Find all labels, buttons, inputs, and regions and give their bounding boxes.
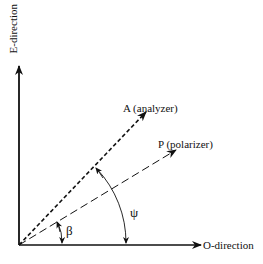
analyzer-label: A (analyzer) xyxy=(123,103,178,114)
psi-angle-arc xyxy=(97,169,126,243)
psi-symbol: ψ xyxy=(130,206,138,219)
psi-angle-arc-start xyxy=(96,168,103,178)
polarizer-vector xyxy=(19,150,176,245)
polarizer-label: P (polarizer) xyxy=(158,139,213,150)
e-direction-label: E-direction xyxy=(8,4,19,53)
o-direction-label: O-direction xyxy=(203,240,254,251)
analyzer-vector xyxy=(19,112,146,245)
diagram-canvas xyxy=(0,0,263,264)
beta-symbol: β xyxy=(66,224,73,237)
polarization-diagram: E-direction O-direction A (analyzer) P (… xyxy=(0,0,263,264)
